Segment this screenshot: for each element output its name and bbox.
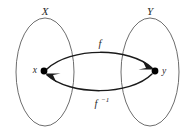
map-label-inverse-base: f xyxy=(95,98,100,109)
element-label-x: x xyxy=(32,65,38,75)
set-label-domain: X xyxy=(41,5,50,17)
set-label-codomain: Y xyxy=(147,5,155,17)
function-inverse-diagram: X Y x y f f −1 xyxy=(0,0,193,131)
set-ellipse-codomain xyxy=(121,18,179,126)
forward-map-curve xyxy=(47,52,152,69)
map-label-inverse: f −1 xyxy=(95,96,110,110)
element-dot-y xyxy=(152,68,159,75)
element-dot-x xyxy=(41,68,48,75)
map-label-forward: f xyxy=(99,38,104,49)
inverse-map-arrowhead-icon xyxy=(45,74,61,83)
map-label-inverse-superscript: −1 xyxy=(101,96,109,104)
diagram-canvas: X Y x y f f −1 xyxy=(0,0,193,131)
element-label-y: y xyxy=(161,66,167,76)
forward-map-arrowhead-icon xyxy=(139,61,155,70)
inverse-map-curve xyxy=(47,74,152,91)
